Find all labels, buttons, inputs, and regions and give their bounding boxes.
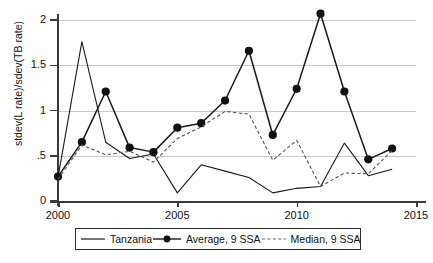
legend-item-average-9-ssa: Average, 9 SSA: [152, 234, 261, 245]
series-line-median-9-ssa: [58, 111, 392, 186]
data-point-marker: [388, 144, 396, 152]
legend-label-average-9-ssa: Average, 9 SSA: [186, 234, 261, 245]
chart-figure: 0.511.52 2000200520102015 stdev(L rate)/…: [0, 0, 433, 263]
data-point-marker: [245, 47, 253, 55]
legend-item-median-9-ssa: Median, 9 SSA: [261, 234, 361, 245]
data-point-marker: [269, 131, 277, 139]
data-point-marker: [293, 85, 301, 93]
data-point-marker: [102, 87, 110, 95]
data-point-marker: [364, 155, 372, 163]
data-point-marker: [149, 148, 157, 156]
series-layer: [0, 0, 433, 263]
series-line-tanzania: [58, 42, 392, 193]
chart-legend: Tanzania Average, 9 SSA Median, 9 SSA: [75, 228, 361, 250]
dashed-line-icon: [261, 234, 287, 244]
data-point-marker: [316, 10, 324, 18]
data-point-marker: [126, 144, 134, 152]
data-point-marker: [340, 87, 348, 95]
data-point-marker: [173, 124, 181, 132]
data-point-marker: [221, 96, 229, 104]
line-with-circle-marker-icon: [152, 234, 182, 244]
legend-label-median-9-ssa: Median, 9 SSA: [291, 234, 361, 245]
data-point-marker: [54, 172, 62, 180]
legend-item-tanzania: Tanzania: [80, 234, 152, 245]
legend-label-tanzania: Tanzania: [110, 234, 152, 245]
solid-line-icon: [80, 234, 106, 244]
series-line-average-9-ssa: [58, 14, 392, 177]
data-point-marker: [197, 119, 205, 127]
